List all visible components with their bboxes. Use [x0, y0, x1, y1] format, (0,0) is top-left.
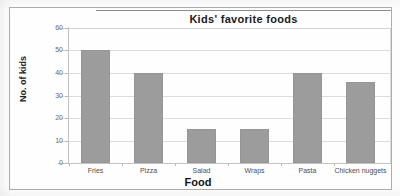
y-tick-label-20: 20 — [41, 113, 63, 123]
bar-chart: Kids' favorite foods No. of kids 60 50 4… — [10, 8, 391, 189]
bar-slot-salad — [175, 28, 228, 163]
y-tick-mark-30 — [65, 96, 68, 97]
x-axis-title: Food — [58, 175, 338, 189]
y-tick-label-0: 0 — [41, 158, 63, 168]
plot-area: 60 50 40 30 20 10 0 — [58, 28, 391, 164]
x-label-pasta: Pasta — [281, 166, 334, 175]
y-tick-mark-10 — [65, 141, 68, 142]
y-tick-label-30: 30 — [41, 91, 63, 101]
y-tick-mark-0 — [65, 163, 68, 164]
chart-screenshot: Kids' favorite foods No. of kids 60 50 4… — [0, 0, 400, 196]
y-tick-mark-60 — [65, 28, 68, 29]
y-tick-mark-20 — [65, 118, 68, 119]
bar-fries[interactable] — [81, 50, 110, 163]
bar-slot-fries — [69, 28, 122, 163]
bar-pizza[interactable] — [134, 73, 163, 163]
title-divider — [96, 10, 391, 11]
bar-pasta[interactable] — [293, 73, 322, 163]
x-label-salad: Salad — [175, 166, 228, 175]
x-label-pizza: Pizza — [122, 166, 175, 175]
x-label-fries: Fries — [69, 166, 122, 175]
bar-slot-chicken-nuggets — [334, 28, 387, 163]
y-axis-title: No. of kids — [16, 44, 30, 114]
bar-chicken-nuggets[interactable] — [346, 82, 375, 163]
x-axis-line — [58, 163, 391, 164]
y-tick-label-40: 40 — [41, 68, 63, 78]
y-tick-label-10: 10 — [41, 136, 63, 146]
y-tick-label-50: 50 — [41, 45, 63, 55]
chart-title: Kids' favorite foods — [96, 12, 391, 27]
bar-series — [69, 28, 391, 163]
y-tick-mark-40 — [65, 73, 68, 74]
x-label-wraps: Wraps — [228, 166, 281, 175]
bar-slot-pasta — [281, 28, 334, 163]
bar-slot-pizza — [122, 28, 175, 163]
bar-wraps[interactable] — [240, 129, 269, 163]
y-tick-label-60: 60 — [41, 23, 63, 33]
bar-slot-wraps — [228, 28, 281, 163]
x-label-chicken-nuggets: Chicken nuggets — [334, 166, 387, 175]
bar-salad[interactable] — [187, 129, 216, 163]
y-tick-mark-50 — [65, 50, 68, 51]
